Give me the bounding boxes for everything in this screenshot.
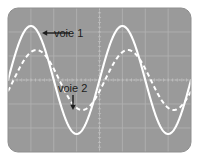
oscilloscope-figure: voie 1 voie 2	[0, 0, 203, 161]
voie-1-label: voie 1	[54, 27, 83, 39]
oscilloscope-display: voie 1 voie 2	[0, 0, 203, 161]
voie-2-label: voie 2	[58, 82, 87, 94]
